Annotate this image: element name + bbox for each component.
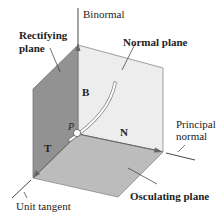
tnb-frame-diagram: Binormal Rectifying plane Normal plane B…: [0, 0, 224, 218]
osculating-plane-label: Osculating plane: [130, 190, 209, 202]
principal-normal-leader: [178, 145, 185, 152]
normal-plane-label: Normal plane: [123, 36, 188, 48]
vector-n-label: N: [120, 126, 128, 138]
principal-normal-label-2: normal: [176, 130, 207, 142]
vector-b-label: B: [82, 86, 90, 98]
principal-normal-label: Principal: [176, 118, 216, 130]
unit-tangent-label: Unit tangent: [16, 200, 71, 212]
unit-tangent-leader: [24, 192, 27, 198]
point-p-label: P: [67, 121, 74, 132]
point-p: [73, 129, 80, 136]
rectifying-plane-label-2: plane: [19, 42, 45, 54]
binormal-label: Binormal: [83, 8, 125, 20]
principal-normal-axis: [166, 153, 195, 160]
vector-t-label: T: [44, 142, 52, 154]
rectifying-plane-label: Rectifying: [19, 29, 68, 41]
unit-tangent-axis: [12, 180, 31, 198]
